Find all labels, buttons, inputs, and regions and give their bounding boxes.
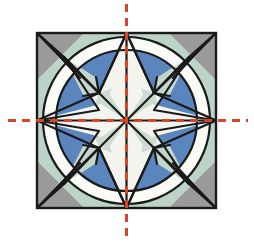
- figure-container: Symmetry figure: square tile with inscri…: [0, 0, 254, 243]
- symmetry-figure: Symmetry figure: square tile with inscri…: [0, 0, 254, 243]
